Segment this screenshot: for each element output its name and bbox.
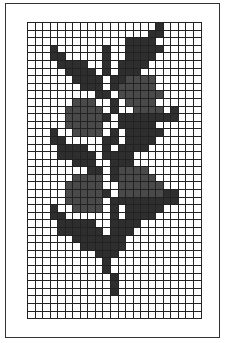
grid-cell	[66, 99, 74, 107]
grid-cell	[36, 114, 44, 122]
grid-cell	[126, 296, 134, 304]
leaf-cell	[58, 228, 66, 236]
berry-cell	[73, 107, 81, 115]
grid-cell	[36, 53, 44, 61]
grid-cell	[81, 296, 89, 304]
grid-cell	[156, 304, 164, 312]
grid-cell	[81, 312, 89, 320]
grid-cell	[179, 182, 187, 190]
grid-cell	[66, 289, 74, 297]
leaf-cell	[81, 69, 89, 77]
grid-cell	[164, 281, 172, 289]
grid-cell	[186, 160, 194, 168]
grid-cell	[58, 198, 66, 206]
grid-cell	[156, 61, 164, 69]
grid-cell	[119, 53, 127, 61]
grid-cell	[171, 122, 179, 130]
grid-cell	[58, 175, 66, 183]
berry-cell	[73, 175, 81, 183]
grid-cell	[156, 69, 164, 77]
grid-cell	[111, 69, 119, 77]
grid-cell	[171, 84, 179, 92]
berry-cell	[66, 182, 74, 190]
berry-cell	[149, 91, 157, 99]
grid-cell	[58, 69, 66, 77]
berry-cell	[88, 190, 96, 198]
grid-cell	[119, 296, 127, 304]
berry-cell	[66, 122, 74, 130]
grid-cell	[186, 182, 194, 190]
berry-cell	[81, 129, 89, 137]
leaf-cell	[111, 281, 119, 289]
grid-cell	[186, 175, 194, 183]
berry-cell	[126, 91, 134, 99]
grid-cell	[51, 84, 59, 92]
grid-cell	[103, 198, 111, 206]
grid-cell	[51, 190, 59, 198]
grid-cell	[88, 312, 96, 320]
grid-cell	[103, 23, 111, 31]
leaf-cell	[134, 198, 142, 206]
leaf-cell	[73, 69, 81, 77]
grid-cell	[28, 251, 36, 259]
grid-cell	[58, 296, 66, 304]
leaf-cell	[111, 243, 119, 251]
grid-cell	[126, 258, 134, 266]
grid-cell	[81, 251, 89, 259]
leaf-cell	[103, 114, 111, 122]
grid-cell	[103, 31, 111, 39]
grid-cell	[43, 31, 51, 39]
grid-cell	[28, 84, 36, 92]
grid-cell	[51, 228, 59, 236]
grid-cell	[81, 266, 89, 274]
grid-cell	[96, 274, 104, 282]
grid-cell	[28, 23, 36, 31]
grid-cell	[156, 274, 164, 282]
grid-cell	[103, 289, 111, 297]
leaf-cell	[81, 152, 89, 160]
grid-cell	[141, 312, 149, 320]
leaf-cell	[119, 145, 127, 153]
leaf-cell	[103, 236, 111, 244]
grid-cell	[134, 228, 142, 236]
grid-cell	[171, 236, 179, 244]
grid-cell	[194, 251, 202, 259]
leaf-cell	[96, 76, 104, 84]
grid-cell	[126, 236, 134, 244]
grid-cell	[134, 23, 142, 31]
leaf-cell	[96, 84, 104, 92]
grid-cell	[156, 251, 164, 259]
leaf-cell	[66, 220, 74, 228]
grid-cell	[88, 61, 96, 69]
leaf-cell	[149, 198, 157, 206]
grid-cell	[179, 258, 187, 266]
grid-cell	[149, 167, 157, 175]
berry-cell	[119, 84, 127, 92]
grid-cell	[36, 243, 44, 251]
grid-cell	[103, 274, 111, 282]
leaf-cell	[149, 114, 157, 122]
leaf-cell	[126, 160, 134, 168]
grid-cell	[194, 182, 202, 190]
grid-cell	[171, 274, 179, 282]
grid-cell	[194, 258, 202, 266]
leaf-cell	[141, 205, 149, 213]
grid-cell	[58, 84, 66, 92]
grid-cell	[88, 274, 96, 282]
grid-cell	[88, 281, 96, 289]
grid-cell	[119, 266, 127, 274]
grid-cell	[96, 46, 104, 54]
leaf-cell	[81, 228, 89, 236]
grid-cell	[111, 312, 119, 320]
grid-cell	[58, 190, 66, 198]
berry-cell	[119, 91, 127, 99]
leaf-cell	[111, 251, 119, 259]
grid-cell	[36, 38, 44, 46]
berry-cell	[73, 205, 81, 213]
grid-cell	[51, 258, 59, 266]
grid-cell	[43, 251, 51, 259]
grid-cell	[28, 61, 36, 69]
grid-cell	[96, 213, 104, 221]
berry-cell	[156, 190, 164, 198]
grid-cell	[66, 38, 74, 46]
